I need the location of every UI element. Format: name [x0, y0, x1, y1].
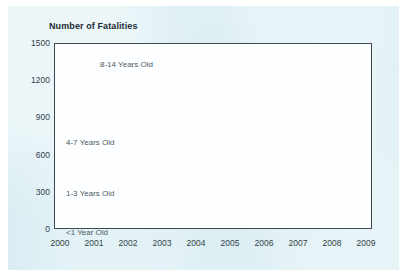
series-label-4: <1 Year Old — [66, 228, 108, 237]
x-axis-tick-label: 2008 — [323, 238, 342, 248]
x-axis-tick-label: 2002 — [119, 238, 138, 248]
y-axis-tick-label: 600 — [36, 150, 50, 160]
y-axis-tick-label: 0 — [45, 224, 50, 234]
series-label-2: 4-7 Years Old — [66, 138, 114, 147]
figure: Number of Fatalities 030060090012001500 … — [0, 0, 407, 276]
page-title: Number of Fatalities — [49, 21, 138, 31]
x-axis-tick-label: 2006 — [255, 238, 274, 248]
y-axis-tick-labels: 030060090012001500 — [16, 43, 50, 229]
y-axis-tick-label: 300 — [36, 187, 50, 197]
series-label-1: 8-14 Years Old — [100, 60, 153, 69]
x-axis-tick-label: 2003 — [153, 238, 172, 248]
x-axis-tick-label: 2009 — [357, 238, 376, 248]
x-axis-tick-label: 2000 — [51, 238, 70, 248]
x-axis-tick-labels: 2000200120022003200420052006200720082009 — [54, 238, 372, 252]
y-axis-tick-label: 1200 — [31, 75, 50, 85]
y-axis-tick-label: 1500 — [31, 38, 50, 48]
series-label-3: 1-3 Years Old — [66, 189, 114, 198]
y-axis-tick-label: 900 — [36, 112, 50, 122]
plot-background — [54, 43, 372, 229]
plot-area — [54, 43, 372, 229]
x-axis-tick-label: 2005 — [221, 238, 240, 248]
x-axis-tick-label: 2001 — [85, 238, 104, 248]
x-axis-tick-label: 2004 — [187, 238, 206, 248]
x-axis-tick-label: 2007 — [289, 238, 308, 248]
